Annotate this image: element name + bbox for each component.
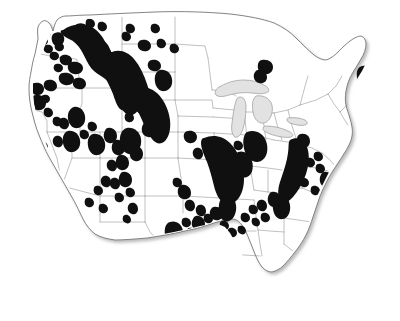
range-patch-ar-3 xyxy=(220,221,229,230)
us-distribution-map xyxy=(0,0,400,321)
range-patch-tx-6 xyxy=(196,241,205,250)
range-patch-ca-3 xyxy=(39,183,48,192)
range-patch-tx-2 xyxy=(202,226,211,235)
distribution-map-figure: Outline map of the contiguous United Sta… xyxy=(0,0,400,321)
range-patch-tx-5 xyxy=(184,237,193,246)
range-patch-appalachian-north xyxy=(297,134,310,148)
range-patch-maine xyxy=(357,65,374,88)
range-patch-ca-1 xyxy=(33,147,42,156)
lake-huron xyxy=(252,96,272,123)
range-patch-ca-4 xyxy=(49,203,59,214)
range-patch-tx-7 xyxy=(207,236,215,245)
range-patch-tx-8 xyxy=(158,237,168,248)
range-patch-la-1 xyxy=(228,228,237,237)
range-patch-tx-9 xyxy=(149,245,159,257)
